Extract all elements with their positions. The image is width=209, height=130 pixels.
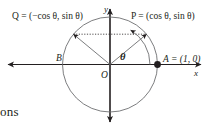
point-q-label: Q = (−cos θ, sin θ) (12, 11, 83, 22)
point-a-dot (154, 61, 161, 68)
point-p-label: P = (cos θ, sin θ) (131, 11, 195, 22)
y-axis-label: y (103, 4, 108, 14)
point-a-label: A = (1, 0) (162, 54, 200, 65)
unit-circle-svg: Q = (−cos θ, sin θ) P = (cos θ, sin θ) A… (0, 0, 209, 130)
point-b-label: B (56, 53, 62, 63)
x-axis-label: x (193, 68, 198, 78)
origin-label: O (101, 70, 108, 80)
unit-circle-figure: Q = (−cos θ, sin θ) P = (cos θ, sin θ) A… (0, 0, 209, 130)
caption-fragment: ons (0, 104, 19, 120)
angle-theta-label: θ (120, 51, 126, 62)
radius-oq (73, 34, 110, 64)
